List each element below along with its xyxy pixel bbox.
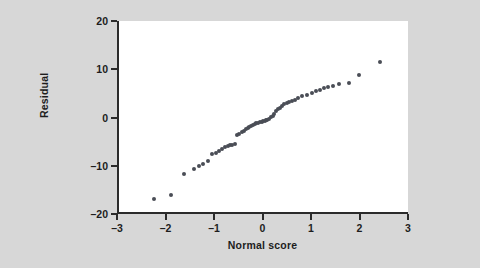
y-axis-tick-mark [111,68,117,70]
data-point [305,93,309,97]
x-axis-tick-label: –3 [102,222,132,234]
x-axis-tick-mark [213,214,215,220]
y-axis-title: Residual [38,73,50,118]
data-point [169,193,173,197]
y-axis-tick-label: 0 [76,113,108,123]
data-point [337,82,341,86]
data-point [378,60,382,64]
data-point [206,159,210,163]
x-axis-title: Normal score [117,239,408,251]
y-axis-tick-mark [111,117,117,119]
data-point [326,85,330,89]
data-point [310,91,314,95]
data-point [182,172,186,176]
data-point [192,167,196,171]
x-axis-tick-label: 2 [345,222,375,234]
data-point [152,197,156,201]
data-point [331,84,335,88]
scatter-plot-area [119,21,408,212]
figure-bottom-margin [0,268,480,280]
y-axis-tick-label: 10 [76,64,108,74]
data-point [357,73,361,77]
x-axis-tick-mark [359,214,361,220]
x-axis-tick-mark [165,214,167,220]
y-axis-tick-label: –20 [76,209,108,219]
plot-frame [117,21,408,214]
data-point [300,94,304,98]
y-axis-tick-mark [111,20,117,22]
x-axis-tick-label: 3 [393,222,423,234]
data-point [347,81,351,85]
y-axis-tick-mark [111,165,117,167]
x-axis-tick-label: 0 [248,222,278,234]
x-axis-tick-mark [116,214,118,220]
figure-panel: 20100–10–20 –3–2–10123 Normal score Resi… [0,0,480,268]
x-axis-tick-mark [407,214,409,220]
x-axis-tick-mark [310,214,312,220]
x-axis-tick-label: –1 [199,222,229,234]
y-axis-tick-label: 20 [76,16,108,26]
y-axis-tick-label: –10 [76,161,108,171]
x-axis-tick-label: –2 [151,222,181,234]
data-point [233,142,237,146]
data-point [197,164,201,168]
data-point [201,162,205,166]
x-axis-tick-mark [262,214,264,220]
x-axis-tick-label: 1 [296,222,326,234]
